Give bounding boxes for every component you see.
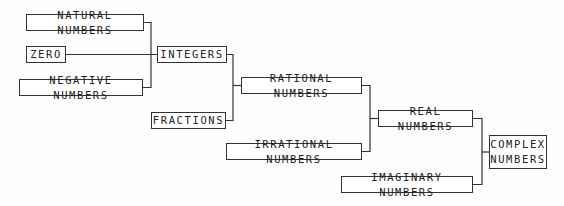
node-fractions: FRACTIONS <box>151 112 226 129</box>
number-systems-diagram: NATURAL NUMBERS ZERO NEGATIVE NUMBERS IN… <box>0 0 564 206</box>
connector-real <box>473 119 482 185</box>
node-rational-numbers: RATIONAL NUMBERS <box>241 77 362 94</box>
connector-rational <box>362 86 370 152</box>
node-imaginary-numbers: IMAGINARY NUMBERS <box>341 176 473 193</box>
node-negative-numbers: NEGATIVE NUMBERS <box>19 79 143 96</box>
node-complex-numbers: COMPLEX NUMBERS <box>489 135 547 169</box>
node-integers: INTEGERS <box>157 46 227 63</box>
node-zero: ZERO <box>26 46 66 63</box>
node-real-numbers: REAL NUMBERS <box>378 110 473 127</box>
node-irrational-numbers: IRRATIONAL NUMBERS <box>226 143 362 160</box>
connector-integers <box>226 55 233 121</box>
node-natural-numbers: NATURAL NUMBERS <box>26 14 144 31</box>
